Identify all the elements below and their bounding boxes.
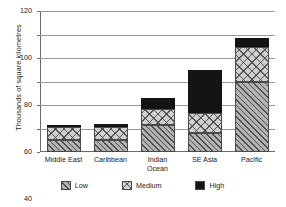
- bar-segment-low[interactable]: [141, 125, 175, 152]
- y-axis-tick-mark: 0: [37, 152, 40, 153]
- legend-swatch-high: [195, 181, 205, 190]
- bar-segment-high[interactable]: [141, 98, 175, 109]
- bar-segment-medium[interactable]: [141, 109, 175, 125]
- bar-segment-high[interactable]: [47, 125, 81, 127]
- y-axis-tick-label: 120: [20, 7, 32, 14]
- bar-stack[interactable]: [188, 70, 222, 152]
- legend-swatch-low: [61, 181, 71, 190]
- plot-area: 020406080100120: [40, 11, 275, 152]
- x-axis-category-label: Pacific: [214, 156, 286, 165]
- legend-item-low[interactable]: Low: [61, 181, 88, 190]
- y-axis-tick-mark: 100: [37, 35, 40, 36]
- y-axis-tick-mark: 60: [37, 82, 40, 83]
- stacked-bar-chart: Thousands of square kilometres 020406080…: [0, 0, 285, 207]
- legend-swatch-medium: [122, 181, 132, 190]
- legend-label: Medium: [136, 182, 162, 190]
- y-axis-title: Thousands of square kilometres: [14, 13, 23, 143]
- x-axis-category-label-line: Pacific: [214, 156, 286, 165]
- x-axis-category-label-line: Ocean: [120, 165, 196, 174]
- legend-label: Low: [75, 182, 88, 190]
- bar-segment-low[interactable]: [94, 140, 128, 152]
- y-axis-tick-mark: 80: [37, 58, 40, 59]
- y-axis-tick-mark: 20: [37, 129, 40, 130]
- bar-segment-medium[interactable]: [235, 47, 269, 81]
- legend-item-high[interactable]: High: [195, 181, 224, 190]
- bar-segment-high[interactable]: [235, 38, 269, 47]
- bar-stack[interactable]: [94, 124, 128, 152]
- bar-segment-low[interactable]: [235, 82, 269, 153]
- bar-segment-high[interactable]: [94, 124, 128, 128]
- bar-segment-high[interactable]: [188, 70, 222, 113]
- bar-segment-low[interactable]: [188, 133, 222, 152]
- bar-stack[interactable]: [47, 125, 81, 152]
- bar-segment-low[interactable]: [47, 140, 81, 152]
- y-axis-tick-label: 100: [20, 54, 32, 61]
- bar-segment-medium[interactable]: [47, 127, 81, 140]
- legend-item-medium[interactable]: Medium: [122, 181, 162, 190]
- legend-label: High: [209, 182, 224, 190]
- y-axis-tick-label: 40: [24, 195, 32, 202]
- bar-stack[interactable]: [235, 38, 269, 152]
- bar-segment-medium[interactable]: [94, 127, 128, 140]
- y-axis-tick-mark: 40: [37, 105, 40, 106]
- bar-segment-medium[interactable]: [188, 113, 222, 133]
- y-axis-tick-mark: 120: [37, 11, 40, 12]
- gridline: [40, 35, 275, 36]
- gridline: [40, 11, 275, 12]
- y-axis-tick-label: 80: [24, 101, 32, 108]
- chart-legend: LowMediumHigh: [0, 181, 285, 190]
- bar-stack[interactable]: [141, 98, 175, 152]
- y-axis-tick-label: 60: [24, 148, 32, 155]
